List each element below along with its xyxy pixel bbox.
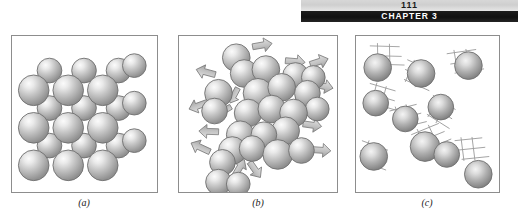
chapter-bar: CHAPTER 3 [301, 11, 518, 22]
page-number: 111 [401, 1, 418, 10]
gas-atoms [360, 52, 492, 188]
running-header: 111 CHAPTER 3 [301, 0, 518, 22]
panel-gas [355, 35, 500, 193]
chapter-label: CHAPTER 3 [381, 12, 437, 21]
page-number-bar: 111 [301, 0, 518, 11]
liquid-diagram [179, 36, 337, 192]
solid-lattice-diagram [12, 36, 157, 192]
panel-caption-a: (a) [54, 197, 114, 208]
panel-caption-c: (c) [397, 197, 457, 208]
gas-diagram [356, 36, 499, 192]
panel-solid [11, 35, 158, 193]
liquid-atoms [202, 44, 329, 192]
panel-caption-b: (b) [228, 197, 288, 208]
lattice-atoms [18, 54, 146, 181]
panel-liquid [178, 35, 338, 193]
